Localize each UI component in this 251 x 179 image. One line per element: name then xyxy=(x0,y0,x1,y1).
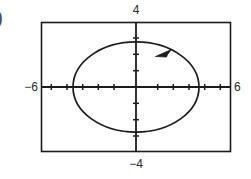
graph-plot xyxy=(0,0,251,179)
direction-arrow-icon xyxy=(156,50,172,58)
figure-root: ) 4 −4 −6 6 xyxy=(0,0,251,179)
